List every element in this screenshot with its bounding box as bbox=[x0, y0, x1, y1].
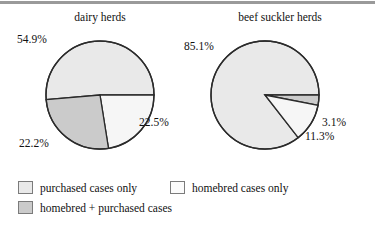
legend-item-homebred-cases-only: homebred cases only bbox=[170, 181, 288, 194]
legend-label-purchased: purchased cases only bbox=[40, 182, 137, 194]
chart-legend: purchased cases only homebred cases only… bbox=[0, 181, 375, 221]
legend-row-1: purchased cases only homebred cases only bbox=[0, 181, 375, 201]
chart-title-beef: beef suckler herds bbox=[180, 11, 375, 23]
figure-top-border bbox=[0, 1, 375, 4]
legend-label-homebred: homebred cases only bbox=[192, 182, 288, 194]
figure-canvas: dairy herds 54.9% 22.5% 22.2% beef suckl… bbox=[0, 0, 375, 245]
legend-item-purchased-cases-only: purchased cases only bbox=[18, 181, 137, 194]
pie-label-beef-both: 3.1% bbox=[322, 116, 346, 128]
pie-slice-dairy-purchased bbox=[46, 41, 154, 100]
legend-swatch-both-icon bbox=[18, 201, 33, 214]
legend-swatch-homebred-icon bbox=[170, 181, 185, 194]
pie-chart-dairy bbox=[44, 39, 156, 151]
legend-item-homebred-plus-purchased: homebred + purchased cases bbox=[18, 201, 172, 214]
pie-label-dairy-purchased: 54.9% bbox=[17, 33, 47, 45]
legend-swatch-purchased-icon bbox=[18, 181, 33, 194]
pie-label-beef-purchased: 85.1% bbox=[184, 40, 214, 52]
pie-label-beef-homebred: 11.3% bbox=[305, 130, 334, 142]
pie-label-dairy-both: 22.2% bbox=[19, 137, 49, 149]
chart-title-dairy: dairy herds bbox=[0, 11, 200, 23]
pie-slice-dairy-both bbox=[46, 95, 108, 149]
legend-row-2: homebred + purchased cases bbox=[0, 201, 375, 221]
pie-label-dairy-homebred: 22.5% bbox=[139, 116, 169, 128]
legend-label-both: homebred + purchased cases bbox=[40, 202, 172, 214]
